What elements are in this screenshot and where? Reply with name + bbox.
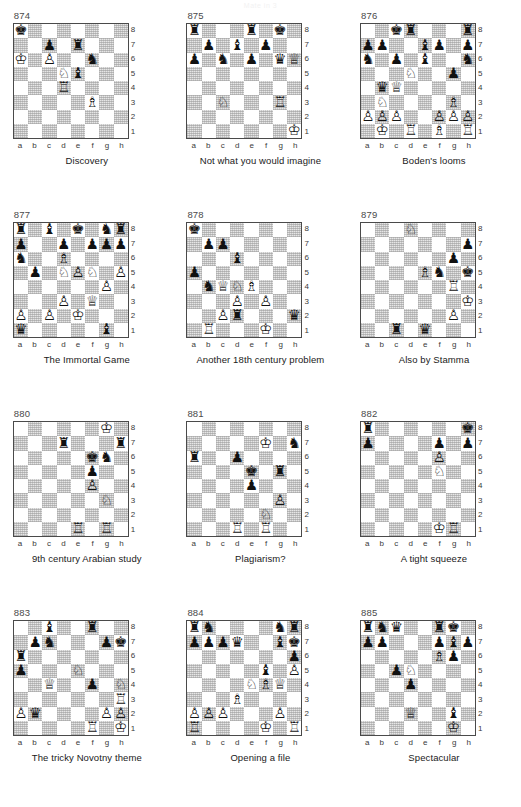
piece-wR-f1[interactable]: ♖ bbox=[85, 721, 99, 735]
piece-bP-e4[interactable]: ♟ bbox=[244, 479, 258, 493]
square-e1[interactable] bbox=[418, 522, 432, 536]
square-g5[interactable] bbox=[273, 67, 287, 81]
square-h1[interactable] bbox=[114, 323, 128, 337]
square-c6[interactable] bbox=[216, 252, 230, 266]
square-e4[interactable] bbox=[71, 479, 85, 493]
piece-bP-b7[interactable]: ♟ bbox=[202, 237, 216, 251]
square-h1[interactable]: ♖ bbox=[461, 124, 475, 138]
square-g2[interactable]: ♙ bbox=[446, 110, 460, 124]
square-e7[interactable] bbox=[418, 635, 432, 649]
square-b6[interactable] bbox=[202, 252, 216, 266]
square-e5[interactable]: ♘ bbox=[71, 664, 85, 678]
square-h4[interactable] bbox=[114, 81, 128, 95]
square-b2[interactable] bbox=[202, 309, 216, 323]
square-f7[interactable] bbox=[85, 635, 99, 649]
piece-wP-a2[interactable]: ♙ bbox=[361, 110, 375, 124]
square-c4[interactable] bbox=[42, 280, 56, 294]
square-c4[interactable] bbox=[42, 479, 56, 493]
square-h8[interactable] bbox=[114, 422, 128, 436]
square-c7[interactable] bbox=[389, 38, 403, 52]
square-a4[interactable] bbox=[14, 479, 28, 493]
square-a7[interactable]: ♟ bbox=[361, 436, 375, 450]
square-g7[interactable]: ♟ bbox=[99, 237, 113, 251]
square-f6[interactable]: ♗ bbox=[432, 650, 446, 664]
square-a3[interactable] bbox=[361, 95, 375, 109]
square-b3[interactable] bbox=[28, 294, 42, 308]
square-d8[interactable]: ♜ bbox=[404, 24, 418, 38]
piece-bK-h7[interactable]: ♚ bbox=[287, 635, 301, 649]
square-f5[interactable]: ♘ bbox=[432, 465, 446, 479]
square-b2[interactable] bbox=[28, 309, 42, 323]
square-g8[interactable]: ♞ bbox=[273, 621, 287, 635]
square-b8[interactable] bbox=[202, 223, 216, 237]
square-f8[interactable] bbox=[85, 422, 99, 436]
square-c3[interactable] bbox=[216, 692, 230, 706]
piece-wN-d4[interactable]: ♘ bbox=[230, 280, 244, 294]
piece-wK-e2[interactable]: ♔ bbox=[71, 309, 85, 323]
square-g5[interactable] bbox=[446, 266, 460, 280]
square-b6[interactable] bbox=[202, 53, 216, 67]
square-b8[interactable] bbox=[28, 422, 42, 436]
square-h6[interactable]: ♟ bbox=[287, 650, 301, 664]
square-e8[interactable] bbox=[71, 24, 85, 38]
square-h3[interactable] bbox=[114, 95, 128, 109]
square-e4[interactable] bbox=[418, 479, 432, 493]
piece-bK-g8[interactable]: ♚ bbox=[273, 24, 287, 38]
square-e2[interactable] bbox=[418, 110, 432, 124]
square-d6[interactable] bbox=[57, 53, 71, 67]
square-g4[interactable]: ♕ bbox=[273, 678, 287, 692]
square-c8[interactable] bbox=[42, 24, 56, 38]
piece-bR-d8[interactable]: ♜ bbox=[404, 24, 418, 38]
square-g3[interactable] bbox=[446, 294, 460, 308]
square-a7[interactable]: ♟ bbox=[361, 635, 375, 649]
square-b1[interactable] bbox=[375, 323, 389, 337]
square-f2[interactable] bbox=[259, 309, 273, 323]
piece-bB-e5[interactable]: ♝ bbox=[71, 67, 85, 81]
square-e3[interactable] bbox=[244, 493, 258, 507]
square-e8[interactable]: ♚ bbox=[71, 223, 85, 237]
square-b8[interactable] bbox=[28, 223, 42, 237]
square-d5[interactable] bbox=[230, 465, 244, 479]
square-d5[interactable]: ♘ bbox=[57, 67, 71, 81]
chessboard[interactable]: ♜♞♞♜♟♟♟♛♝♚♟♝♙♘♗♕♗♙♙♙♙♖♔♖ bbox=[186, 620, 302, 736]
square-c7[interactable] bbox=[42, 237, 56, 251]
piece-bR-a6[interactable]: ♜ bbox=[187, 451, 201, 465]
square-g8[interactable]: ♚ bbox=[446, 621, 460, 635]
square-b7[interactable] bbox=[202, 436, 216, 450]
piece-wN-f5[interactable]: ♘ bbox=[85, 266, 99, 280]
square-f4[interactable] bbox=[259, 479, 273, 493]
piece-wP-c2[interactable]: ♙ bbox=[389, 110, 403, 124]
piece-bP-e6[interactable]: ♟ bbox=[244, 53, 258, 67]
square-a1[interactable] bbox=[14, 124, 28, 138]
square-b6[interactable] bbox=[28, 252, 42, 266]
square-d5[interactable] bbox=[230, 664, 244, 678]
square-d8[interactable] bbox=[230, 223, 244, 237]
square-a6[interactable]: ♞ bbox=[14, 252, 28, 266]
square-d3[interactable]: ♙ bbox=[230, 294, 244, 308]
square-a8[interactable]: ♜ bbox=[14, 223, 28, 237]
square-e7[interactable] bbox=[418, 436, 432, 450]
piece-bN-b4[interactable]: ♞ bbox=[202, 280, 216, 294]
square-h8[interactable]: ♜ bbox=[461, 24, 475, 38]
square-f7[interactable] bbox=[432, 237, 446, 251]
piece-wP-b2[interactable]: ♙ bbox=[375, 110, 389, 124]
square-h4[interactable]: ♘ bbox=[114, 678, 128, 692]
square-b2[interactable] bbox=[375, 508, 389, 522]
square-c8[interactable]: ♚ bbox=[389, 24, 403, 38]
square-e4[interactable] bbox=[418, 81, 432, 95]
square-f8[interactable] bbox=[259, 621, 273, 635]
square-h3[interactable]: ♖ bbox=[114, 692, 128, 706]
square-c3[interactable] bbox=[389, 493, 403, 507]
square-f7[interactable]: ♔ bbox=[259, 436, 273, 450]
square-e3[interactable] bbox=[244, 692, 258, 706]
square-d2[interactable] bbox=[230, 707, 244, 721]
square-a4[interactable] bbox=[187, 678, 201, 692]
piece-wB-g3[interactable]: ♗ bbox=[446, 95, 460, 109]
square-d6[interactable] bbox=[404, 451, 418, 465]
square-c4[interactable] bbox=[389, 479, 403, 493]
square-h4[interactable] bbox=[287, 479, 301, 493]
square-d8[interactable] bbox=[230, 621, 244, 635]
square-g7[interactable] bbox=[273, 436, 287, 450]
piece-bR-a6[interactable]: ♜ bbox=[14, 650, 28, 664]
square-f3[interactable] bbox=[432, 493, 446, 507]
